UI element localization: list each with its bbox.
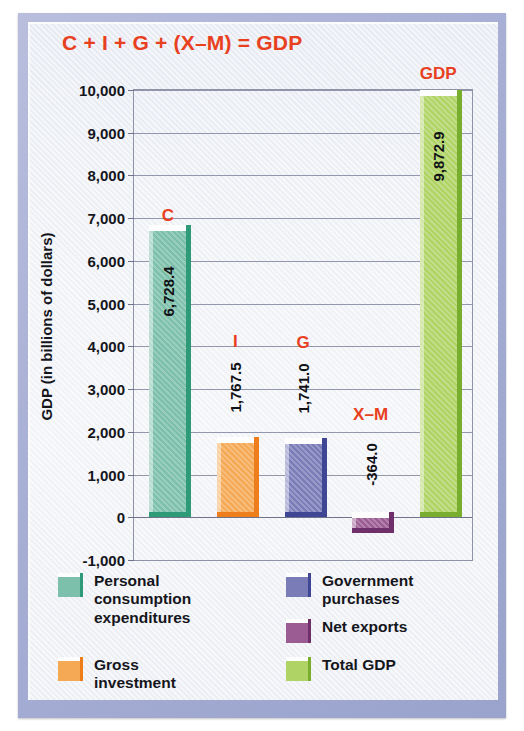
legend-swatch-cap: [286, 573, 308, 577]
bar-tag-label: C: [128, 206, 208, 226]
bar-tag-label: X–M: [331, 405, 411, 425]
bar-value-label: -364.0: [362, 429, 379, 501]
y-tick-label: 7,000: [87, 210, 125, 227]
bar[interactable]: [285, 443, 322, 517]
legend-swatch-face: [286, 660, 308, 681]
legend-swatch-icon: [58, 573, 83, 597]
y-tick-mark: [128, 175, 134, 176]
y-tick-label: -1,000: [82, 552, 125, 569]
y-tick-label: 9,000: [87, 124, 125, 141]
y-axis-title: GDP (in billions of dollars): [38, 177, 55, 477]
bar-highlight: [149, 230, 153, 517]
legend-swatch-cap: [58, 573, 80, 577]
figure-root: C + I + G + (X–M) = GDP GDP (in billions…: [0, 0, 524, 731]
bar-highlight: [217, 442, 221, 518]
y-tick-mark: [128, 517, 134, 518]
bar-top-cap: [420, 90, 457, 96]
bar-highlight: [285, 443, 289, 517]
chart-legend: Personal consumption expendituresGross i…: [58, 572, 478, 700]
bar-top-cap: [217, 437, 254, 443]
legend-item[interactable]: Net exports: [286, 618, 407, 643]
y-tick-label: 4,000: [87, 338, 125, 355]
legend-label: Total GDP: [322, 656, 396, 674]
legend-swatch-side: [308, 573, 311, 597]
y-tick-mark: [128, 432, 134, 433]
legend-item[interactable]: Government purchases: [286, 572, 413, 609]
frame-highlight-left: [28, 22, 30, 700]
y-tick-mark: [128, 560, 134, 561]
legend-label: Net exports: [322, 618, 407, 636]
legend-item[interactable]: Personal consumption expenditures: [58, 572, 191, 627]
plot-area: 10,0009,0008,0007,0006,0005,0004,0003,00…: [133, 89, 473, 561]
legend-swatch-side: [308, 657, 311, 681]
bar-base: [352, 528, 389, 533]
bar-highlight: [420, 95, 424, 517]
y-tick-mark: [128, 304, 134, 305]
legend-swatch-side: [308, 619, 311, 643]
legend-swatch-side: [80, 573, 83, 597]
legend-swatch-side: [80, 657, 83, 681]
legend-label: Government purchases: [322, 572, 413, 609]
y-tick-mark: [128, 90, 134, 91]
legend-swatch-icon: [58, 657, 83, 681]
bar-top-cap: [352, 512, 389, 518]
y-tick-mark: [128, 346, 134, 347]
legend-swatch-face: [58, 576, 80, 597]
bar-value-label: 6,728.4: [159, 255, 176, 327]
legend-swatch-cap: [58, 657, 80, 661]
legend-swatch-face: [286, 622, 308, 643]
y-tick-mark: [128, 261, 134, 262]
y-tick-label: 2,000: [87, 423, 125, 440]
legend-swatch-icon: [286, 619, 311, 643]
y-tick-mark: [128, 475, 134, 476]
legend-swatch-face: [286, 576, 308, 597]
legend-swatch-cap: [286, 619, 308, 623]
y-tick-label: 0: [117, 509, 125, 526]
y-tick-mark: [128, 133, 134, 134]
legend-item[interactable]: Total GDP: [286, 656, 396, 681]
legend-swatch-cap: [286, 657, 308, 661]
y-tick-label: 6,000: [87, 252, 125, 269]
legend-swatch-face: [58, 660, 80, 681]
y-tick-label: 10,000: [79, 82, 125, 99]
chart-title: C + I + G + (X–M) = GDP: [62, 31, 302, 55]
frame-highlight-top: [28, 22, 498, 24]
bar-side: [389, 512, 394, 533]
bar-face: [285, 443, 322, 517]
bar-value-label: 1,767.5: [227, 351, 244, 423]
bar-tag-label: GDP: [398, 64, 478, 84]
bar-value-label: 1,741.0: [295, 352, 312, 424]
legend-item[interactable]: Gross investment: [58, 656, 176, 693]
bar-side: [254, 437, 259, 518]
y-tick-label: 3,000: [87, 381, 125, 398]
bar[interactable]: [217, 442, 254, 518]
bar-side: [457, 90, 462, 517]
bar-value-label: 9,872.9: [430, 121, 447, 193]
legend-swatch-icon: [286, 657, 311, 681]
bar-base: [285, 512, 322, 517]
y-tick-label: 1,000: [87, 466, 125, 483]
y-tick-label: 8,000: [87, 167, 125, 184]
legend-swatch-icon: [286, 573, 311, 597]
bar-tag-label: G: [263, 333, 343, 353]
legend-label: Personal consumption expenditures: [94, 572, 191, 627]
bar-face: [217, 442, 254, 518]
bar-base: [149, 512, 186, 517]
legend-label: Gross investment: [94, 656, 176, 693]
bar-base: [217, 512, 254, 517]
bar[interactable]: [352, 517, 389, 533]
y-tick-mark: [128, 389, 134, 390]
gridline: [134, 517, 472, 518]
bar-top-cap: [285, 438, 322, 444]
bar-base: [420, 512, 457, 517]
bar-side: [322, 438, 327, 517]
y-tick-label: 5,000: [87, 295, 125, 312]
bar-side: [186, 225, 191, 517]
